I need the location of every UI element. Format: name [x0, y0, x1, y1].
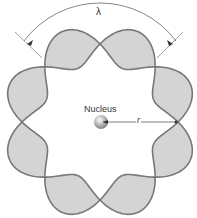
arrowhead-left [27, 40, 33, 46]
wavelength-label: λ [96, 6, 101, 17]
nucleus-label: Nucleus [84, 104, 117, 114]
radius-endpoint [175, 121, 178, 124]
radius-label: r [136, 115, 141, 125]
